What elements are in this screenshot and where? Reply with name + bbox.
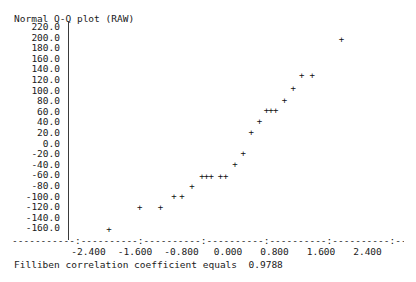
y-axis-tick-label: 0.0 <box>8 139 60 149</box>
y-axis-tick-label: -40.0 <box>8 160 60 170</box>
y-axis-tick-label: 200.0 <box>8 33 60 43</box>
y-axis-tick-label: 20.0 <box>8 128 60 138</box>
data-point: + <box>281 97 288 104</box>
data-point: + <box>256 118 263 125</box>
y-axis-tick-label: 160.0 <box>8 54 60 64</box>
data-point: + <box>231 161 238 168</box>
y-axis-tick-label: 100.0 <box>8 86 60 96</box>
y-axis-tick-label: -80.0 <box>8 181 60 191</box>
data-point: + <box>309 72 316 79</box>
data-point: + <box>290 85 297 92</box>
y-axis-tick-label: 180.0 <box>8 43 60 53</box>
y-axis-tick-label: -100.0 <box>8 192 60 202</box>
data-point: + <box>170 193 177 200</box>
qq-plot-figure: Normal Q-Q plot (RAW) 220.0200.0180.0160… <box>0 0 416 282</box>
data-point: + <box>272 107 279 114</box>
y-axis-line <box>68 22 69 240</box>
x-axis-line: -----------:----------:----------:------… <box>12 236 404 245</box>
y-axis-tick-label: -60.0 <box>8 170 60 180</box>
data-point: + <box>222 173 229 180</box>
filliben-caption: Filliben correlation coefficient equals … <box>14 259 283 270</box>
y-axis-tick-label: 40.0 <box>8 117 60 127</box>
y-axis-tick-label: -120.0 <box>8 202 60 212</box>
data-point: + <box>240 150 247 157</box>
data-point: + <box>179 193 186 200</box>
data-point: + <box>105 226 112 233</box>
data-point: + <box>248 129 255 136</box>
data-point: + <box>208 173 215 180</box>
y-axis-tick-label: 120.0 <box>8 75 60 85</box>
data-point: + <box>136 204 143 211</box>
data-point: + <box>298 72 305 79</box>
y-axis-tick-label: 220.0 <box>8 22 60 32</box>
y-axis-tick-label: -140.0 <box>8 213 60 223</box>
y-axis-tick-label: -160.0 <box>8 223 60 233</box>
data-point: + <box>188 183 195 190</box>
y-axis-tick-label: -20.0 <box>8 149 60 159</box>
data-point: + <box>338 36 345 43</box>
y-axis-tick-label: 140.0 <box>8 64 60 74</box>
data-point: + <box>157 204 164 211</box>
y-axis-tick-label: 80.0 <box>8 96 60 106</box>
y-axis-tick-label: 60.0 <box>8 107 60 117</box>
x-axis-tick-label: 2.400 <box>338 247 398 257</box>
